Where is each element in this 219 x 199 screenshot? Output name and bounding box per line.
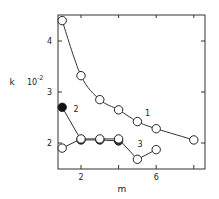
data-point bbox=[133, 155, 141, 163]
plot-frame bbox=[58, 15, 205, 169]
x-tick-label: 6 bbox=[154, 173, 159, 182]
data-point bbox=[133, 117, 141, 125]
axis-labels: m k 10 -2 bbox=[9, 74, 126, 194]
y-tick-label: 4 bbox=[47, 37, 52, 46]
data-point bbox=[77, 71, 85, 79]
data-point bbox=[77, 135, 85, 143]
data-point bbox=[96, 95, 104, 103]
data-point bbox=[58, 144, 66, 152]
data-point bbox=[114, 135, 122, 143]
data-point bbox=[152, 145, 160, 153]
y-axis-exponent: -2 bbox=[37, 74, 43, 82]
data-point bbox=[96, 135, 104, 143]
series-line-2 bbox=[62, 107, 118, 141]
series-label-1: 1 bbox=[145, 109, 150, 118]
data-point bbox=[58, 16, 66, 24]
plot-border bbox=[58, 15, 205, 169]
y-axis-label: k bbox=[9, 77, 15, 87]
chart: 26234 123 m k 10 -2 bbox=[0, 0, 219, 199]
axis-ticks: 26234 bbox=[47, 15, 205, 182]
data-point bbox=[114, 106, 122, 114]
y-tick-label: 2 bbox=[47, 139, 52, 148]
y-tick-label: 3 bbox=[47, 88, 52, 97]
data-point bbox=[58, 103, 66, 111]
y-axis-multiplier: 10 bbox=[27, 78, 37, 87]
series-label-2: 2 bbox=[73, 105, 78, 114]
data-series: 123 bbox=[58, 16, 198, 163]
x-axis-label: m bbox=[118, 184, 127, 194]
series-label-3: 3 bbox=[137, 140, 142, 149]
data-point bbox=[190, 136, 198, 144]
data-point bbox=[152, 125, 160, 133]
x-tick-label: 2 bbox=[78, 173, 83, 182]
